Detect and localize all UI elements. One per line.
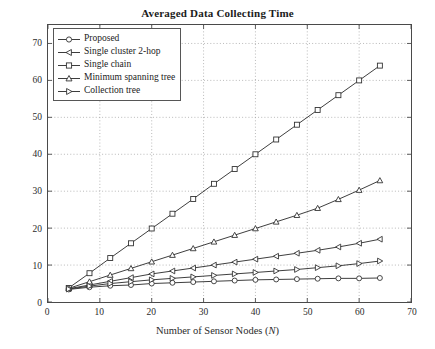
- x-tick-label: 50: [303, 307, 313, 317]
- x-axis-title: Number of Sensor Nodes (N): [0, 325, 435, 336]
- series-marker: [191, 274, 196, 280]
- legend-marker-icon: [57, 45, 81, 58]
- series-marker: [232, 259, 237, 265]
- series-marker: [149, 226, 154, 231]
- series-marker: [356, 240, 361, 246]
- series-marker: [191, 280, 196, 285]
- chart-figure: Averaged Data Collecting Time 0102030405…: [0, 0, 435, 349]
- series-marker: [253, 270, 258, 276]
- legend-label: Single chain: [84, 58, 131, 71]
- series-marker: [128, 241, 133, 246]
- legend-label: Collection tree: [84, 84, 140, 97]
- series-marker: [294, 122, 299, 127]
- legend-item: Single chain: [57, 58, 175, 71]
- legend-item: Single cluster 2-hop: [57, 45, 175, 58]
- y-tick-label: 30: [33, 186, 43, 196]
- legend-marker-icon: [57, 58, 81, 71]
- series-marker: [274, 277, 279, 282]
- legend-label: Proposed: [84, 32, 119, 45]
- series-marker: [190, 265, 195, 271]
- series-marker: [212, 273, 217, 279]
- series-marker: [108, 256, 113, 261]
- data-series: [66, 178, 383, 291]
- x-tick-label: 30: [199, 307, 209, 317]
- legend-label: Minimum spanning tree: [84, 71, 175, 84]
- series-marker: [315, 265, 320, 271]
- x-tick-label: 60: [355, 307, 365, 317]
- series-marker: [315, 276, 320, 281]
- series-marker: [378, 258, 383, 264]
- legend-item: Collection tree: [57, 84, 175, 97]
- x-axis-title-symbol-wrap: (N): [265, 325, 279, 336]
- series-marker: [211, 262, 216, 268]
- legend-label: Single cluster 2-hop: [84, 45, 161, 58]
- series-marker: [377, 276, 382, 281]
- series-marker: [315, 247, 320, 253]
- series-marker: [253, 152, 258, 157]
- series-marker: [357, 276, 362, 281]
- series-marker: [191, 196, 196, 201]
- y-tick-label: 50: [33, 112, 43, 122]
- series-marker: [170, 211, 175, 216]
- series-marker: [336, 196, 342, 201]
- series-marker: [87, 271, 92, 276]
- x-tick-label: 20: [147, 307, 157, 317]
- legend: ProposedSingle cluster 2-hopSingle chain…: [53, 28, 181, 101]
- series-marker: [336, 263, 341, 269]
- y-tick-label: 60: [33, 75, 43, 85]
- series-marker: [294, 250, 299, 256]
- x-tick-label: 70: [407, 307, 417, 317]
- y-tick-label: 20: [33, 224, 43, 234]
- series-line: [69, 278, 380, 289]
- y-tick-label: 10: [33, 261, 43, 271]
- x-tick-label: 0: [45, 307, 50, 317]
- x-tick-label: 10: [94, 307, 104, 317]
- series-marker: [377, 178, 383, 183]
- series-marker: [149, 271, 154, 277]
- series-marker: [274, 137, 279, 142]
- series-marker: [211, 181, 216, 186]
- y-tick-label: 40: [33, 149, 43, 159]
- series-marker: [232, 271, 237, 277]
- y-axis-tick-labels: 010203040506070: [0, 0, 42, 349]
- series-marker: [357, 78, 362, 83]
- series-marker: [336, 93, 341, 98]
- chart-title: Averaged Data Collecting Time: [0, 7, 435, 19]
- legend-item: Minimum spanning tree: [57, 71, 175, 84]
- series-marker: [232, 278, 237, 283]
- series-marker: [294, 277, 299, 282]
- series-marker: [211, 279, 216, 284]
- series-marker: [170, 268, 175, 274]
- y-tick-label: 70: [33, 38, 43, 48]
- series-marker: [336, 244, 341, 250]
- series-marker: [295, 267, 300, 273]
- x-axis-title-symbol: N: [269, 325, 276, 336]
- legend-marker-icon: [57, 71, 81, 84]
- x-tick-label: 40: [251, 307, 261, 317]
- series-marker: [232, 167, 237, 172]
- series-marker: [273, 253, 278, 259]
- legend-marker-icon: [57, 32, 81, 45]
- series-marker: [253, 256, 258, 262]
- legend-marker-icon: [57, 84, 81, 97]
- series-marker: [377, 63, 382, 68]
- series-marker: [356, 187, 362, 192]
- legend-item: Proposed: [57, 32, 175, 45]
- series-marker: [357, 261, 362, 267]
- series-line: [69, 180, 380, 288]
- x-axis-title-text: Number of Sensor Nodes: [156, 325, 262, 336]
- series-marker: [315, 107, 320, 112]
- series-line: [69, 261, 380, 289]
- series-marker: [336, 276, 341, 281]
- x-axis-tick-labels: 010203040506070: [0, 307, 435, 323]
- series-marker: [377, 236, 382, 242]
- series-marker: [274, 268, 279, 274]
- series-marker: [253, 277, 258, 282]
- series-marker: [315, 205, 321, 210]
